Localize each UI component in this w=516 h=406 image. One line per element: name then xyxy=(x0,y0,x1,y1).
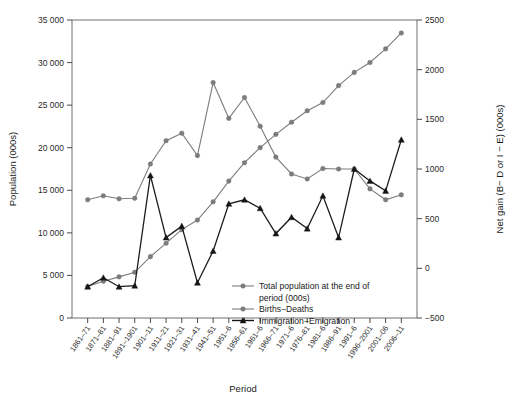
data-point-marker xyxy=(257,205,263,211)
data-point-marker xyxy=(258,124,263,129)
data-point-marker xyxy=(289,172,294,177)
right-tick-label: 2500 xyxy=(425,15,444,25)
data-point-marker xyxy=(100,275,106,281)
data-point-marker xyxy=(211,80,216,85)
data-point-marker xyxy=(399,193,404,198)
data-point-marker xyxy=(368,60,373,65)
right-tick-label: 1500 xyxy=(425,114,444,124)
plot-frame xyxy=(72,20,417,318)
data-point-marker xyxy=(336,167,341,172)
data-point-marker xyxy=(320,193,326,199)
data-point-marker xyxy=(321,100,326,105)
data-point-marker xyxy=(85,197,90,202)
data-point-marker xyxy=(148,162,153,167)
right-tick-label: 2000 xyxy=(425,65,444,75)
data-point-marker xyxy=(305,177,310,182)
left-tick-label: 35 000 xyxy=(38,15,64,25)
data-point-marker xyxy=(194,280,200,286)
data-point-marker xyxy=(305,108,310,113)
data-point-marker xyxy=(195,218,200,223)
legend-label: Immigration−Emigration xyxy=(259,316,350,326)
data-point-marker xyxy=(101,194,106,199)
right-tick-label: 500 xyxy=(425,214,439,224)
right-tick-label: 0 xyxy=(425,263,430,273)
data-point-marker xyxy=(336,235,342,241)
data-point-marker xyxy=(398,137,404,143)
legend-item-1: Births−Deaths xyxy=(232,304,313,314)
data-point-marker xyxy=(195,153,200,158)
left-tick-label: 5 000 xyxy=(43,270,65,280)
data-point-marker xyxy=(383,197,388,202)
data-point-marker xyxy=(179,223,185,229)
population-net-gain-chart: 05 00010 00015 00020 00025 00030 00035 0… xyxy=(0,0,516,406)
left-axis-title: Population (000s) xyxy=(7,132,18,206)
legend-item-2: Immigration−Emigration xyxy=(232,316,350,326)
right-axis-ticks: −50005001000150020002500 xyxy=(417,15,444,323)
right-axis-title: Net gain (B− D or I − E) (000s) xyxy=(494,105,505,234)
data-point-marker xyxy=(179,131,184,136)
data-point-marker xyxy=(368,187,373,192)
data-point-marker xyxy=(289,214,295,220)
legend-label-continued: period (000s) xyxy=(259,293,310,303)
data-point-marker xyxy=(258,145,263,150)
legend-item-0: Total population at the end ofperiod (00… xyxy=(232,281,370,303)
data-point-marker xyxy=(383,188,389,194)
series-layer xyxy=(85,31,405,290)
data-point-marker xyxy=(147,172,153,178)
data-point-marker xyxy=(274,155,279,160)
chart-legend: Total population at the end ofperiod (00… xyxy=(232,281,370,326)
data-point-marker xyxy=(210,248,216,254)
data-point-marker xyxy=(383,47,388,52)
chart-canvas: 05 00010 00015 00020 00025 00030 00035 0… xyxy=(0,0,516,406)
right-tick-label: −500 xyxy=(425,313,444,323)
left-tick-label: 25 000 xyxy=(38,100,64,110)
data-point-marker xyxy=(132,196,137,201)
legend-label: Total population at the end of xyxy=(259,281,370,291)
data-point-marker xyxy=(289,120,294,125)
data-point-marker xyxy=(164,138,169,143)
left-tick-label: 15 000 xyxy=(38,185,64,195)
data-point-marker xyxy=(242,197,248,203)
left-tick-label: 0 xyxy=(59,313,64,323)
data-point-marker xyxy=(352,70,357,75)
right-tick-label: 1000 xyxy=(425,164,444,174)
data-point-marker xyxy=(211,199,216,204)
left-tick-label: 20 000 xyxy=(38,143,64,153)
data-point-marker xyxy=(117,275,122,280)
x-axis-title: Period xyxy=(229,383,256,394)
x-axis-ticks: 1861–711871–811881–911891–19011901–11191… xyxy=(68,318,406,360)
series-line-1 xyxy=(88,83,402,200)
data-point-marker xyxy=(274,132,279,137)
left-axis-ticks: 05 00010 00015 00020 00025 00030 00035 0… xyxy=(38,15,72,323)
legend-label: Births−Deaths xyxy=(259,304,313,314)
data-point-marker xyxy=(164,241,169,246)
left-tick-label: 30 000 xyxy=(38,58,64,68)
data-point-marker xyxy=(336,83,341,88)
left-tick-label: 10 000 xyxy=(38,228,64,238)
data-point-marker xyxy=(227,179,232,184)
data-point-marker xyxy=(321,166,326,171)
data-point-marker xyxy=(399,31,404,36)
data-point-marker xyxy=(242,95,247,100)
data-point-marker xyxy=(117,197,122,202)
data-point-marker xyxy=(148,254,153,259)
data-point-marker xyxy=(227,116,232,121)
data-point-marker xyxy=(242,160,247,165)
